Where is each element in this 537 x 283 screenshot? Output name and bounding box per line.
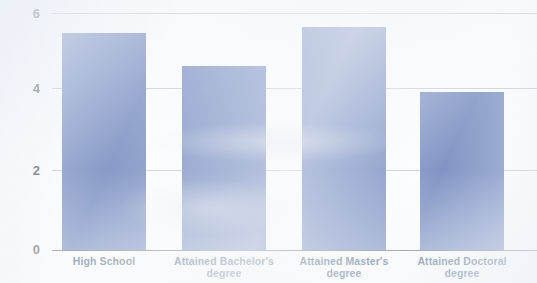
y-tick-label-2: 2 — [0, 164, 40, 177]
category-label-attained-masters-degree: Attained Master's degree — [284, 256, 404, 280]
category-label-line1: Attained Bachelor's — [162, 256, 286, 268]
gridline-6 — [52, 13, 537, 14]
plot-area: 6 4 2 0 High School Attained Bachelor's … — [0, 0, 537, 283]
y-tick-label-0: 0 — [0, 243, 40, 256]
bar-attained-doctoral-degree — [420, 92, 504, 250]
category-label-attained-bachelors-degree: Attained Bachelor's degree — [162, 256, 286, 280]
bar-attained-masters-degree — [302, 27, 386, 250]
category-label-line1: Attained Master's — [284, 256, 404, 268]
category-label-line1: Attained Doctoral — [402, 256, 522, 268]
bar-high-school — [62, 33, 146, 250]
category-label-high-school: High School — [44, 256, 164, 268]
bar-attained-bachelors-degree — [182, 66, 266, 250]
bar-chart: 6 4 2 0 High School Attained Bachelor's … — [0, 0, 537, 283]
y-tick-label-4: 4 — [0, 82, 40, 95]
category-label-line1: High School — [44, 256, 164, 268]
category-label-line2: degree — [284, 268, 404, 280]
y-tick-label-6: 6 — [0, 7, 40, 20]
x-axis-baseline — [52, 250, 537, 251]
category-label-line2: degree — [402, 268, 522, 280]
category-label-attained-doctoral-degree: Attained Doctoral degree — [402, 256, 522, 280]
category-label-line2: degree — [162, 268, 286, 280]
